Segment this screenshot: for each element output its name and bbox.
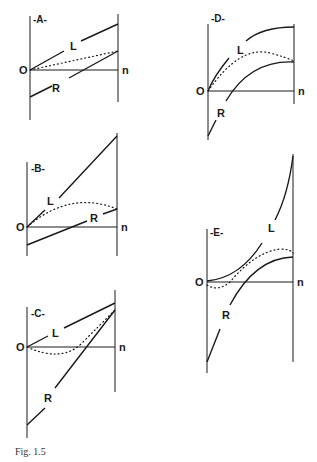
panel-e: -E- O n L R [195,154,304,373]
curve-r-upper [226,62,294,101]
panel-d: -D- O n L R [196,13,305,140]
curve-l-lower [208,58,229,91]
panel-title: -D- [211,13,225,24]
origin-label: O [195,276,204,288]
curve-l-label: L [47,195,54,207]
curve-r-label: R [222,309,230,321]
curve-r-lower [208,120,216,136]
curve-l-label: L [268,222,275,234]
panel-title: -A- [33,14,47,25]
figure-canvas: -A- O n L R -B- O n L R -C- O n L R [0,0,317,462]
panel-title: -C- [31,308,45,319]
panel-title: -E- [210,227,223,238]
origin-label: O [16,341,25,353]
curve-l-upper [275,156,293,220]
origin-label: O [16,221,25,233]
panel-b: -B- O n L R [16,133,128,256]
curve-r-label: R [52,82,60,94]
curve-l-label: L [70,40,77,52]
curve-l-label: L [52,327,59,339]
curve-average [30,51,118,70]
curve-average [208,52,294,91]
curve-r [30,51,118,97]
panel-title: -B- [31,163,45,174]
panel-a: -A- O n L R [19,14,129,120]
curve-r-label: R [90,212,98,224]
curve-r-label: R [217,107,225,119]
curve-l-lower [207,243,262,281]
origin-label: O [19,64,28,76]
panel-c: -C- O n L R [16,290,126,438]
end-label: n [119,341,126,353]
end-label: n [121,221,128,233]
end-label: n [122,64,129,76]
curve-r-lower [207,329,220,362]
end-label: n [297,276,304,288]
curve-r-label: R [44,392,52,404]
curve-l-label: L [237,44,244,56]
figure-caption: Fig. 1.5 [15,446,46,457]
curve-r-upper [230,257,293,305]
curve-r [27,310,115,425]
end-label: n [298,85,305,97]
curve-l-upper [246,27,294,41]
origin-label: O [196,85,205,97]
